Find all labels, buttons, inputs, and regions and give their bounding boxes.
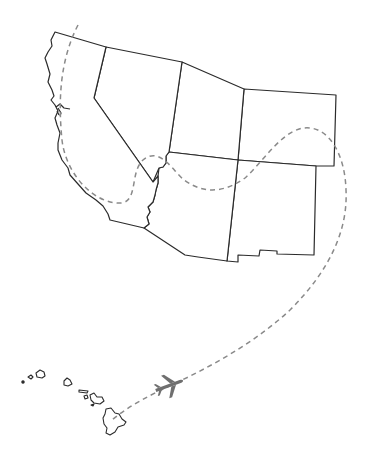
state-new-mexico	[227, 160, 316, 262]
island-molokai	[64, 378, 72, 386]
hawaii-islands	[22, 370, 126, 435]
island-kauai	[28, 375, 33, 379]
airplane-icon	[152, 369, 187, 401]
island-kahoolawe	[91, 404, 94, 406]
island-lanai	[84, 395, 88, 399]
island-niihau	[22, 381, 24, 383]
route-map: Flight route from Hawaii across the US S…	[0, 0, 367, 462]
island-maui	[90, 393, 104, 404]
state-colorado	[238, 89, 336, 166]
island-molokai-2	[79, 390, 88, 393]
island-oahu	[36, 370, 45, 378]
